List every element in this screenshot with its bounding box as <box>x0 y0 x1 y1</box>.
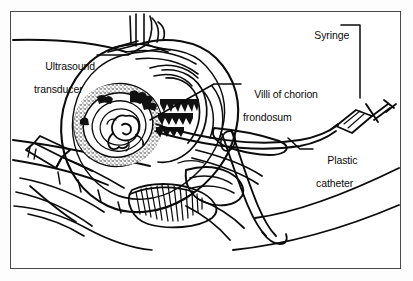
sacrum-spine <box>16 178 104 226</box>
label-catheter-line2: catheter <box>316 178 358 190</box>
illustration-artwork <box>0 0 413 281</box>
label-ultrasound-line2: transducer <box>34 84 95 96</box>
label-plastic-catheter: Plastic catheter <box>316 143 358 212</box>
label-catheter-line1: Plastic <box>327 154 357 166</box>
label-villi-line2: frondosum <box>243 112 318 124</box>
pelvic-organ-hatching <box>136 185 202 221</box>
syringe-barrel <box>336 110 372 133</box>
label-syringe-line1: Syringe <box>314 29 349 41</box>
label-ultrasound-line1: Ultrasound <box>45 60 95 72</box>
label-syringe: Syringe <box>303 18 349 53</box>
label-villi-line1: Villi of chorion <box>254 88 318 100</box>
label-ultrasound-transducer: Ultrasound transducer <box>34 49 95 118</box>
figure-root: Ultrasound transducer Villi of chorion f… <box>0 0 413 281</box>
internal-os-detail <box>178 161 204 163</box>
label-villi-of-chorion-frondosum: Villi of chorion frondosum <box>243 77 318 146</box>
amniotic-membrane-ring <box>96 104 144 150</box>
